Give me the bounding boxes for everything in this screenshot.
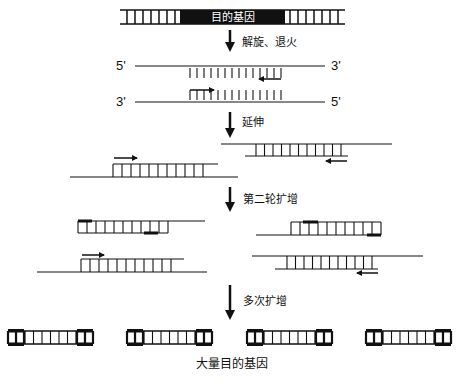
denatured-annealed-strands	[135, 66, 325, 102]
strand-bottom-3-prime: 3'	[116, 94, 126, 109]
primer-mark	[367, 234, 381, 237]
step-label-multiple-rounds: 多次扩增	[243, 294, 287, 308]
strand-top-5-prime: 5'	[116, 58, 126, 73]
process-arrows	[225, 30, 235, 320]
primer-mark	[303, 221, 318, 224]
arrowhead-icon	[225, 310, 235, 320]
primer-mark	[78, 220, 92, 223]
extension-products	[70, 144, 392, 177]
step-label-extension: 延伸	[242, 116, 264, 129]
second-round-products	[37, 220, 423, 274]
primer-mark	[144, 232, 158, 235]
step-label-denature-anneal: 解旋、退火	[242, 35, 297, 49]
pcr-diagram: 目的基因 解旋、退火 延伸 第二轮扩增 多次扩增 5' 3' 3' 5' 大量目…	[0, 0, 463, 388]
arrowhead-icon	[225, 202, 235, 212]
amplified-gene-copies	[8, 329, 451, 346]
strand-bottom-5-prime: 5'	[331, 94, 341, 109]
arrowhead-icon	[225, 128, 235, 138]
target-gene-label: 目的基因	[211, 10, 255, 24]
step-label-second-round: 第二轮扩增	[243, 192, 298, 206]
arrowhead-icon	[225, 42, 235, 52]
strand-top-3-prime: 3'	[331, 58, 341, 73]
result-label: 大量目的基因	[196, 356, 268, 371]
